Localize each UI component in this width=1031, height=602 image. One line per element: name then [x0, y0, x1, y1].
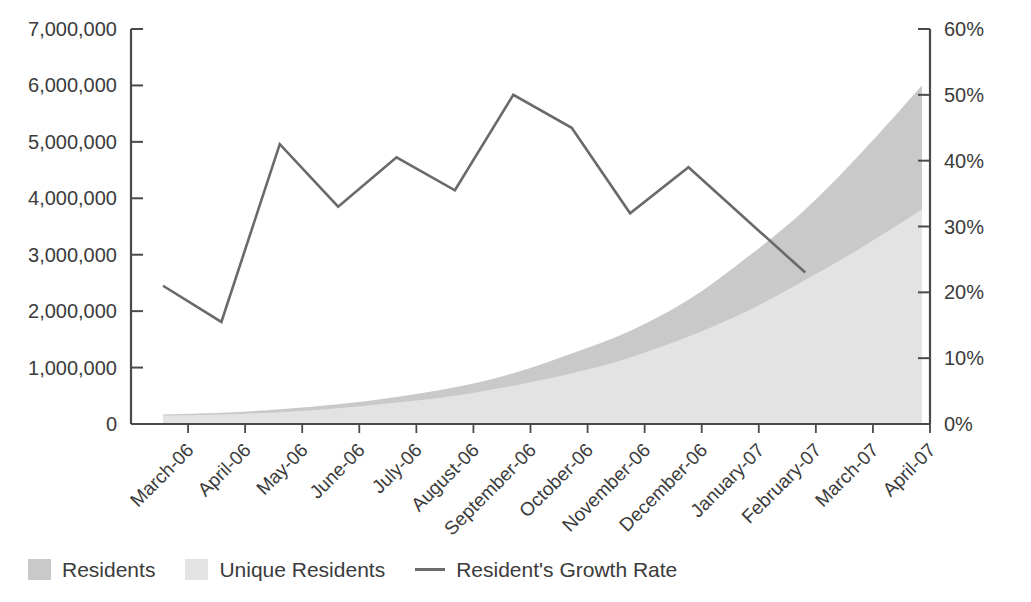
legend-swatch-icon [28, 559, 51, 580]
x-axis-tick-labels: March-06April-06May-06June-06July-06Augu… [0, 0, 1031, 602]
legend-item[interactable]: Resident's Growth Rate [415, 559, 677, 580]
legend-item[interactable]: Residents [28, 559, 155, 580]
chart-legend: ResidentsUnique ResidentsResident's Grow… [28, 552, 707, 586]
legend-item-label: Resident's Growth Rate [456, 559, 677, 580]
legend-item-label: Residents [62, 559, 155, 580]
legend-swatch-icon [185, 559, 208, 580]
legend-item-label: Unique Residents [219, 559, 385, 580]
legend-item[interactable]: Unique Residents [185, 559, 385, 580]
chart-container: 01,000,0002,000,0003,000,0004,000,0005,0… [0, 0, 1031, 602]
legend-line-icon [415, 568, 445, 571]
